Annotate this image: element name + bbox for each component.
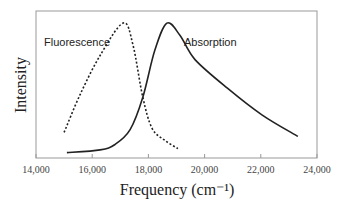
spectra-chart: 14,00016,00018,00020,00022,00024,000 Flu… [0,0,348,204]
plot-frame [36,11,317,158]
x-tick-label: 16,000 [78,164,106,175]
x-axis-ticks [36,154,317,158]
fluorescence-label: Fluorescence [44,36,110,48]
x-tick-label: 14,000 [22,164,50,175]
absorption-label: Absorption [184,36,237,48]
x-tick-label: 20,000 [191,164,219,175]
x-axis-title: Frequency (cm⁻¹) [120,181,235,199]
x-tick-label: 22,000 [247,164,275,175]
x-tick-label: 24,000 [303,164,331,175]
x-tick-label: 18,000 [135,164,163,175]
y-axis-title: Intensity [12,57,30,113]
x-axis-tick-labels: 14,00016,00018,00020,00022,00024,000 [22,164,331,175]
